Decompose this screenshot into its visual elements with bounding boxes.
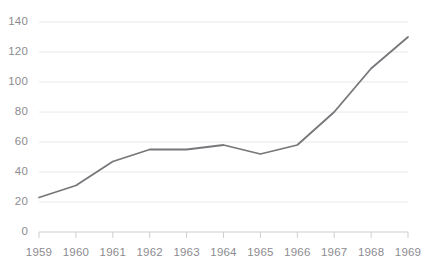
y-axis-tick-label: 100 — [8, 76, 28, 88]
y-axis-tick-label: 40 — [15, 166, 28, 178]
y-axis-tick-label: 0 — [21, 226, 28, 238]
gridlines-group — [39, 22, 408, 232]
x-axis-ticks-group — [39, 232, 408, 238]
x-axis-tick-label: 1969 — [378, 247, 425, 259]
y-axis-tick-label: 120 — [8, 46, 28, 58]
y-axis-tick-label: 140 — [8, 16, 28, 28]
y-axis-tick-label: 60 — [15, 136, 28, 148]
data-series-line — [39, 37, 408, 198]
y-axis-tick-label: 80 — [15, 106, 28, 118]
y-axis-tick-label: 20 — [15, 196, 28, 208]
